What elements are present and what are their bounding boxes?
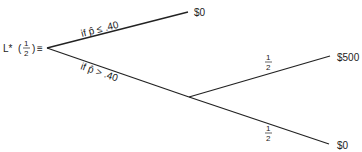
- root-numerator: 1: [24, 39, 29, 48]
- prob-upper-denominator: 2: [266, 63, 271, 72]
- root-label: L* ( 1 2 ) ≡: [3, 39, 43, 58]
- prob-upper-numerator: 1: [266, 53, 271, 62]
- root-equiv: ≡: [37, 43, 43, 54]
- root-open-paren: (: [18, 43, 22, 54]
- chance-arm-upper-probability: 1 2: [265, 53, 272, 72]
- branch-upper-outcome: $0: [194, 7, 206, 18]
- chance-arm-upper-line: [189, 56, 330, 97]
- branch-upper-condition: if p̂ ≤ .40: [80, 19, 120, 39]
- prob-lower-numerator: 1: [266, 124, 271, 133]
- branch-lower-condition: if p̂ > .40: [79, 60, 120, 83]
- prob-lower-denominator: 2: [266, 134, 271, 143]
- root-denominator: 2: [24, 49, 29, 58]
- root-close-paren: ): [32, 43, 35, 54]
- chance-arm-lower-outcome: $0: [337, 140, 349, 151]
- root-prefix: L*: [3, 43, 13, 54]
- decision-tree-diagram: L* ( 1 2 ) ≡ if p̂ ≤ .40 $0 if p̂ > .40 …: [0, 0, 362, 152]
- chance-arm-lower-probability: 1 2: [265, 124, 272, 143]
- chance-arm-upper-outcome: $500: [337, 52, 360, 63]
- chance-arm-lower-line: [189, 97, 329, 144]
